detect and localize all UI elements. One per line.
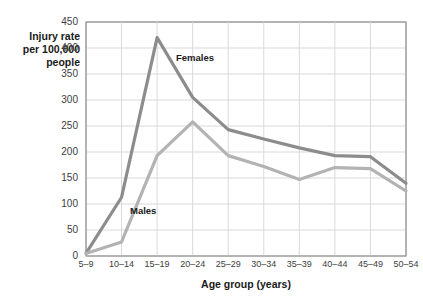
y-axis-tick-label: 150	[44, 173, 78, 183]
x-axis-tick-label: 50–54	[384, 259, 423, 269]
y-axis-tick-label: 300	[44, 95, 78, 105]
series-label-females: Females	[176, 52, 214, 63]
y-axis-tick-label: 100	[44, 199, 78, 209]
y-axis-tick-label: 450	[44, 17, 78, 27]
y-axis-tick-label: 200	[44, 147, 78, 157]
series-label-males: Males	[130, 205, 156, 216]
x-axis-title: Age group (years)	[86, 278, 406, 290]
y-axis-tick-label: 350	[44, 69, 78, 79]
y-axis-tick-label: 400	[44, 43, 78, 53]
y-axis-tick-label: 50	[44, 225, 78, 235]
y-axis-tick-label: 250	[44, 121, 78, 131]
